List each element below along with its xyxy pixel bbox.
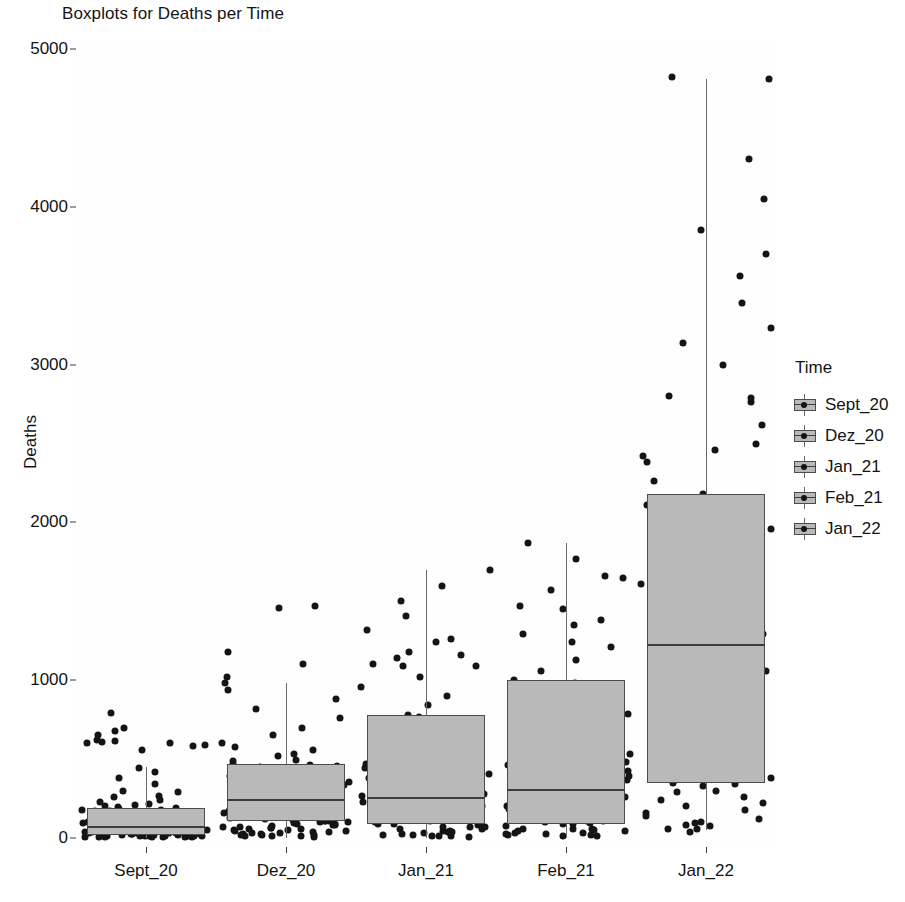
jitter-point bbox=[231, 744, 238, 751]
legend-item-dez_20[interactable]: Dez_20 bbox=[793, 420, 903, 451]
jitter-point bbox=[236, 823, 243, 830]
jitter-point bbox=[269, 732, 276, 739]
chart-root: Boxplots for Deaths per Time Deaths 0100… bbox=[0, 0, 905, 902]
jitter-point bbox=[248, 830, 255, 837]
jitter-point bbox=[79, 807, 86, 814]
jitter-point bbox=[625, 710, 632, 717]
jitter-point bbox=[467, 824, 474, 831]
jitter-point bbox=[219, 823, 226, 830]
jitter-point bbox=[650, 478, 657, 485]
x-tick-label: Feb_21 bbox=[537, 861, 595, 881]
jitter-point bbox=[402, 612, 409, 619]
jitter-point bbox=[767, 325, 774, 332]
y-tick-label: 4000 bbox=[10, 197, 68, 217]
jitter-point bbox=[512, 830, 519, 837]
jitter-point bbox=[767, 525, 774, 532]
jitter-point bbox=[658, 797, 665, 804]
jitter-point bbox=[120, 787, 127, 794]
box-rect bbox=[367, 715, 485, 824]
jitter-point bbox=[252, 705, 259, 712]
jitter-point bbox=[225, 648, 232, 655]
jitter-point bbox=[268, 833, 275, 840]
y-axis-title: Deaths bbox=[21, 397, 41, 487]
jitter-point bbox=[572, 555, 579, 562]
jitter-point bbox=[405, 648, 412, 655]
whisker-upper bbox=[566, 543, 567, 680]
jitter-point bbox=[189, 743, 196, 750]
jitter-point bbox=[223, 674, 230, 681]
jitter-point bbox=[370, 660, 377, 667]
whisker-lower bbox=[286, 821, 287, 838]
legend-item-jan_22[interactable]: Jan_22 bbox=[793, 513, 903, 544]
jitter-point bbox=[756, 816, 763, 823]
legend-item-sept_20[interactable]: Sept_20 bbox=[793, 389, 903, 420]
jitter-point bbox=[152, 768, 159, 775]
jitter-point bbox=[258, 830, 265, 837]
jitter-point bbox=[602, 573, 609, 580]
jitter-point bbox=[746, 156, 753, 163]
jitter-point bbox=[444, 828, 451, 835]
jitter-point bbox=[524, 539, 531, 546]
legend-key-boxplot-icon bbox=[793, 487, 817, 509]
jitter-point bbox=[537, 667, 544, 674]
jitter-point bbox=[297, 832, 304, 839]
jitter-point bbox=[336, 715, 343, 722]
box-rect bbox=[647, 494, 765, 783]
legend-entries: Sept_20Dez_20Jan_21Feb_21Jan_22 bbox=[793, 389, 903, 544]
jitter-point bbox=[686, 828, 693, 835]
jitter-point bbox=[711, 446, 718, 453]
jitter-point bbox=[107, 710, 114, 717]
jitter-point bbox=[719, 361, 726, 368]
jitter-point bbox=[591, 827, 598, 834]
legend-label: Sept_20 bbox=[825, 395, 888, 415]
jitter-point bbox=[752, 440, 759, 447]
jitter-point bbox=[570, 621, 577, 628]
jitter-point bbox=[622, 827, 629, 834]
jitter-point bbox=[712, 787, 719, 794]
x-tick-mark bbox=[706, 847, 707, 853]
median-line bbox=[227, 799, 345, 801]
jitter-point bbox=[312, 603, 319, 610]
legend: Time Sept_20Dez_20Jan_21Feb_21Jan_22 bbox=[793, 358, 903, 544]
jitter-point bbox=[597, 617, 604, 624]
legend-label: Feb_21 bbox=[825, 488, 883, 508]
jitter-point bbox=[627, 751, 634, 758]
jitter-point bbox=[290, 750, 297, 757]
jitter-point bbox=[683, 822, 690, 829]
jitter-point bbox=[741, 806, 748, 813]
jitter-point bbox=[326, 828, 333, 835]
jitter-point bbox=[458, 651, 465, 658]
jitter-point bbox=[485, 770, 492, 777]
jitter-point bbox=[517, 603, 524, 610]
legend-item-jan_21[interactable]: Jan_21 bbox=[793, 451, 903, 482]
jitter-point bbox=[443, 692, 450, 699]
jitter-point bbox=[568, 639, 575, 646]
jitter-point bbox=[466, 833, 473, 840]
legend-key-boxplot-icon bbox=[793, 518, 817, 540]
legend-key-boxplot-icon bbox=[793, 425, 817, 447]
y-tick-label: 1000 bbox=[10, 670, 68, 690]
jitter-point bbox=[519, 825, 526, 832]
jitter-point bbox=[155, 792, 162, 799]
jitter-point bbox=[393, 655, 400, 662]
jitter-point bbox=[547, 587, 554, 594]
jitter-point bbox=[139, 746, 146, 753]
y-tick-label: 5000 bbox=[10, 39, 68, 59]
x-tick-mark bbox=[286, 847, 287, 853]
box-rect bbox=[507, 680, 625, 824]
jitter-point bbox=[397, 598, 404, 605]
jitter-point bbox=[679, 339, 686, 346]
box-rect bbox=[87, 808, 205, 835]
jitter-point bbox=[759, 800, 766, 807]
jitter-point bbox=[608, 644, 615, 651]
jitter-point bbox=[707, 823, 714, 830]
jitter-point bbox=[640, 453, 647, 460]
jitter-point bbox=[504, 832, 511, 839]
jitter-point bbox=[310, 829, 317, 836]
jitter-point bbox=[625, 768, 632, 775]
jitter-point bbox=[120, 724, 127, 731]
legend-label: Jan_22 bbox=[825, 519, 881, 539]
legend-item-feb_21[interactable]: Feb_21 bbox=[793, 482, 903, 513]
jitter-point bbox=[740, 793, 747, 800]
jitter-point bbox=[298, 724, 305, 731]
